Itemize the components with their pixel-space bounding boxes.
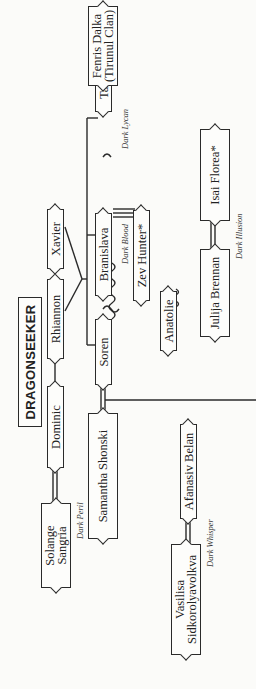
node-soren: Soren (95, 319, 112, 385)
label-dark-illusion: Dark Illusion (234, 213, 244, 259)
node-rhiannon: Rhiannon (47, 279, 64, 359)
node-anatolie: Anatolie (160, 291, 177, 351)
family-tree-diagram: DRAGONSEEKER Solange Sangria Dominic Rhi… (0, 0, 256, 689)
label-dark-lycan: Dark Lycan (120, 109, 130, 149)
node-samantha: Samantha Shonski (88, 413, 118, 539)
node-vasilisa: Vasilisa Sidkorolyavolkva (171, 544, 201, 655)
label-dark-peril: Dark Peril (75, 502, 85, 539)
label-dark-whisper: Dark Whisper (205, 519, 215, 567)
node-julija: Julija Brennan (200, 249, 230, 337)
node-isai: Isai Florea* (200, 129, 230, 221)
family-name-title: DRAGONSEEKER (18, 297, 42, 427)
node-afanasiv: Afanasiv Belan (180, 424, 197, 519)
label-dark-blood: Dark Blood (120, 224, 130, 264)
node-solange: Solange Sangria (41, 503, 71, 588)
node-zev: Zev Hunter* (133, 210, 150, 301)
node-dominic: Dominic (47, 386, 64, 468)
node-xavier: Xavier (47, 209, 64, 269)
node-fenris-box: Fenris Dalka (Tirunul Clan) (88, 6, 118, 86)
node-branislava: Branislava (95, 213, 112, 296)
